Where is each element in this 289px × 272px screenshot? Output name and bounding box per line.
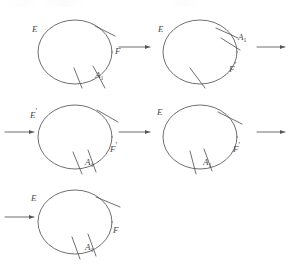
circle-3-group <box>38 105 118 174</box>
label-circle-2-F-prime: F′ <box>229 62 236 74</box>
circle-3-mark-lower-a <box>73 152 82 174</box>
label-circle-2-A1: A1 <box>238 33 247 43</box>
circle-2-mark-upper-a <box>216 28 238 38</box>
label-circle-5-F: F <box>113 226 119 235</box>
circle-2-outline <box>163 20 237 84</box>
circle-2-mark-lower <box>190 68 205 88</box>
label-circle-4-A1: A1 <box>203 158 212 168</box>
label-circle-4-E: E <box>157 108 163 117</box>
label-circle-3-F-prime: F′ <box>110 142 117 154</box>
circle-5-group <box>38 190 120 259</box>
circle-4-mark-upper <box>218 112 242 124</box>
label-circle-5-E: E <box>31 194 37 203</box>
circle-4-outline <box>163 105 237 169</box>
circle-1-mark-upper <box>95 26 115 36</box>
label-circle-4-F-prime: F′ <box>233 142 240 154</box>
circle-2-group <box>163 20 240 88</box>
label-circle-3-E-prime: E′ <box>30 108 37 120</box>
label-circle-1-A1: A1 <box>95 71 104 81</box>
label-circle-1-E: E <box>32 25 38 34</box>
circle-1-mark-lower-b <box>74 68 82 88</box>
circle-5-mark-upper <box>96 197 120 207</box>
label-circle-5-A1: A1 <box>85 243 94 253</box>
label-circle-1-F: F <box>115 47 121 56</box>
circle-3-outline <box>38 105 112 169</box>
label-circle-3-A1: A1 <box>85 158 94 168</box>
circle-3-mark-upper <box>97 110 118 122</box>
circle-4-mark-lower-a <box>190 151 196 174</box>
circle-5-mark-lower-a <box>72 237 80 259</box>
label-circle-2-E: E <box>158 25 164 34</box>
